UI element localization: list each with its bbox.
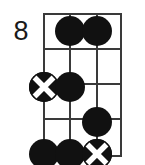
string-line-4 [120,13,122,157]
fret-line-1 [43,48,122,50]
marker-fret5-string3 [82,139,112,165]
fret-line-top [43,13,122,15]
fret-position-label: 8 [6,16,36,46]
marker-fret5-string2 [55,139,85,165]
cross-icon [82,139,112,165]
chord-diagram: 8 [0,0,145,165]
fretboard-grid [43,13,122,157]
marker-fret4-string3 [82,107,112,137]
marker-fret3-string2 [55,72,85,102]
marker-fret1-string3 [82,16,112,46]
marker-fret1-string2 [55,16,85,46]
